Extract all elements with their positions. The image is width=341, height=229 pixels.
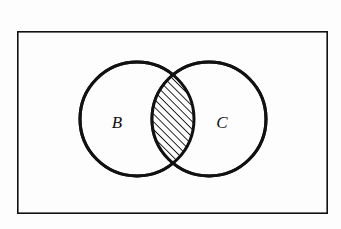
set-label-b: B xyxy=(112,113,123,132)
venn-diagram-figure: B C xyxy=(0,0,341,229)
venn-diagram-canvas: B C xyxy=(0,0,341,229)
set-label-c: C xyxy=(216,113,228,132)
